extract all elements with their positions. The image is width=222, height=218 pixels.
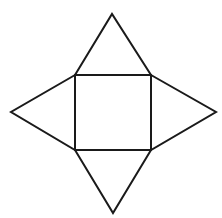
- square-base: [75, 75, 151, 150]
- right-triangle: [151, 75, 216, 150]
- left-triangle: [11, 75, 75, 150]
- top-triangle: [75, 14, 151, 75]
- pyramid-net-svg: [0, 0, 222, 218]
- pyramid-net-diagram: [0, 0, 222, 218]
- bottom-triangle: [75, 150, 151, 213]
